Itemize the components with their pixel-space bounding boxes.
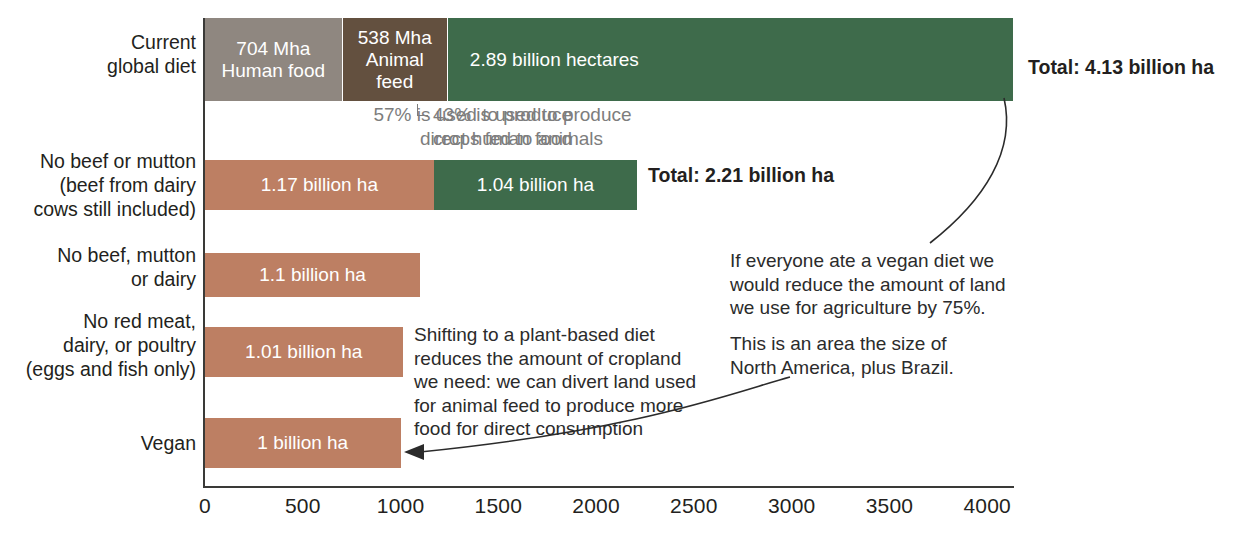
arrowhead-vegan-bar: [404, 444, 424, 460]
bar-segment-label: 1.04 billion ha: [477, 174, 594, 196]
total-label-current-global-diet: Total: 4.13 billion ha: [1028, 56, 1214, 79]
annotation-area-comparison: This is an area the size of North Americ…: [730, 332, 954, 379]
x-tick-2000: 2000: [572, 494, 620, 518]
category-label-current-global-diet: Current global diet: [107, 30, 196, 78]
bar-segment-4-human-food: 1 billion ha: [205, 418, 401, 468]
horizontal-stacked-bar-chart: 05001000150020002500300035004000 Current…: [0, 0, 1242, 542]
bar-segment-label: 538 Mha Animal feed: [358, 27, 432, 93]
annotation-vegan-land-reduction: If everyone ate a vegan diet we would re…: [730, 249, 1006, 320]
bar-segment-label: 704 Mha Human food: [222, 38, 326, 82]
bar-segment-0-animal-feed: 538 Mha Animal feed: [343, 18, 448, 101]
x-tick-500: 500: [285, 494, 321, 518]
annotation-animal-feed-share: 43% is used to produce crops fed to anim…: [433, 103, 632, 150]
x-tick-3500: 3500: [866, 494, 914, 518]
x-tick-4000: 4000: [963, 494, 1011, 518]
x-tick-3000: 3000: [768, 494, 816, 518]
x-tick-1000: 1000: [377, 494, 425, 518]
category-label-vegan: Vegan: [141, 431, 196, 455]
bar-segment-1-human-food: 1.17 billion ha: [205, 160, 434, 210]
bar-segment-3-human-food: 1.01 billion ha: [205, 327, 403, 377]
x-tick-2500: 2500: [670, 494, 718, 518]
bar-segment-0-pasture: 2.89 billion hectares: [448, 18, 1013, 101]
category-label-no-beef-or-mutton: No beef or mutton (beef from dairy cows …: [33, 149, 196, 221]
bracket-animal-feed-connector: [417, 104, 428, 116]
x-axis-line: [203, 486, 1014, 488]
bar-segment-2-human-food: 1.1 billion ha: [205, 253, 420, 297]
total-label-no-beef-or-mutton: Total: 2.21 billion ha: [648, 164, 834, 187]
bar-segment-0-human-food: 704 Mha Human food: [205, 18, 343, 101]
bar-segment-label: 1.1 billion ha: [259, 264, 366, 286]
bar-segment-1-animal-feed: 1.04 billion ha: [434, 160, 637, 210]
annotation-shift-to-plant-based: Shifting to a plant-based diet reduces t…: [414, 323, 696, 441]
x-tick-1500: 1500: [475, 494, 523, 518]
x-tick-0: 0: [199, 494, 211, 518]
bar-segment-label: 1.01 billion ha: [245, 341, 362, 363]
bar-segment-label: 1.17 billion ha: [261, 174, 378, 196]
category-label-no-red-meat: No red meat, dairy, or poultry (eggs and…: [26, 309, 196, 381]
category-label-no-beef-mutton-dairy: No beef, mutton or dairy: [57, 243, 196, 291]
bar-segment-label: 2.89 billion hectares: [470, 49, 639, 71]
leader-line-vegan-note: [930, 98, 1007, 243]
bar-segment-label: 1 billion ha: [257, 432, 348, 454]
